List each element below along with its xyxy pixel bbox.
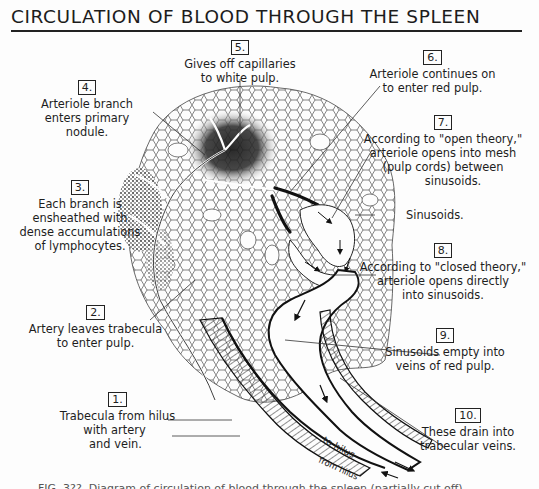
label-1: 1. Trabecula from hilus with artery and … [30,392,205,451]
label-2-number: 2. [86,305,105,320]
label-3-number: 3. [71,180,90,195]
label-sinusoids: Sinusoids. [406,208,496,222]
label-4-number: 4. [78,80,97,95]
label-3: 3. Each branch is ensheathed with dense … [0,180,160,253]
diagram-page: CIRCULATION OF BLOOD THROUGH THE SPLEEN [0,0,539,489]
label-5: 5. Gives off capillaries to white pulp. [165,40,315,85]
label-6: 6. Arteriole continues on to enter red p… [330,50,535,95]
label-7-number: 7. [434,115,453,130]
white-pulp-nodule [184,108,280,188]
label-10: 10. These drain into trabecular veins. [398,408,538,453]
label-9-number: 9. [436,328,455,343]
label-4: 4. Arteriole branch enters primary nodul… [12,80,162,139]
label-8-number: 8. [434,243,453,258]
label-6-number: 6. [423,50,442,65]
label-10-number: 10. [455,408,481,423]
label-7: 7. According to "open theory," arteriole… [348,115,538,188]
label-9: 9. Sinusoids empty into veins of red pul… [360,328,530,373]
figure-caption: FIG. 3??. Diagram of circulation of bloo… [38,482,508,489]
label-1-number: 1. [108,392,127,407]
label-5-number: 5. [231,40,250,55]
label-8: 8. According to "closed theory," arterio… [348,243,538,302]
label-2: 2. Artery leaves trabecula to enter pulp… [8,305,183,350]
